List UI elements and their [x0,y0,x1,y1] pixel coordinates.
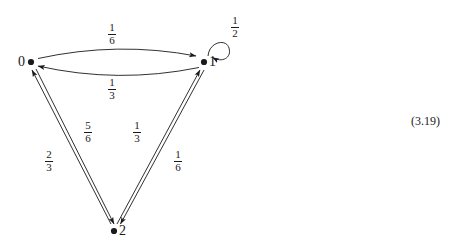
fraction-numerator: 1 [174,149,182,160]
fraction-denominator: 6 [174,162,182,173]
fraction-numerator: 1 [231,15,239,26]
edge-weight-2-to-1: 1 3 [133,120,141,144]
fraction-denominator: 6 [84,133,92,144]
fraction-numerator: 2 [45,149,53,160]
equation-number: (3.19) [411,115,440,127]
edge-2-to-1 [117,70,200,224]
fraction-denominator: 3 [133,133,141,144]
fraction-numerator: 5 [84,120,92,131]
edge-1-to-2 [121,70,205,224]
edge-0-to-1 [38,49,196,58]
node-label-2: 2 [119,224,126,238]
edge-weight-1-to-2: 1 6 [174,149,182,173]
figure-root: 0 1 2 1 6 1 3 1 2 2 3 5 6 1 3 1 6 (3.19) [0,0,465,248]
fraction-numerator: 1 [108,77,116,88]
edge-weight-0-to-1: 1 6 [108,22,116,46]
edge-weight-2-to-0: 2 3 [45,149,53,173]
fraction-numerator: 1 [133,120,141,131]
edge-weight-0-to-2: 5 6 [84,120,92,144]
node-dot-0 [28,59,34,65]
edge-0-to-2 [36,69,114,224]
fraction-numerator: 1 [108,22,116,33]
node-label-0: 0 [18,55,25,69]
fraction-denominator: 3 [45,162,53,173]
node-label-1: 1 [209,55,216,69]
fraction-denominator: 6 [108,35,116,46]
fraction-denominator: 3 [108,90,116,101]
edge-weight-1-to-0: 1 3 [108,77,116,101]
node-dot-1 [201,59,207,65]
edge-1-to-0 [38,66,199,75]
node-dot-2 [111,228,117,234]
edge-weight-1-self-loop: 1 2 [231,15,239,39]
edge-2-to-0 [32,70,111,224]
fraction-denominator: 2 [231,28,239,39]
